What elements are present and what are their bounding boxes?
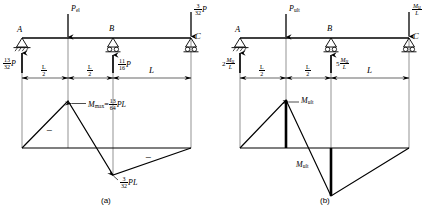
reaction-b-right-l-symbol: L: [343, 64, 346, 70]
load-label-pult-subscript: ult: [294, 7, 300, 13]
dimension-a1-numerator: L: [41, 64, 47, 70]
reaction-a-right-numerator: Mu: [226, 57, 236, 64]
reaction-a-right-fraction: Mu L: [226, 57, 236, 71]
pin-support-a-b: [232, 38, 249, 51]
dimension-b1-fraction: L 2: [259, 64, 265, 78]
reaction-a-left-fraction: 13 32: [3, 57, 11, 71]
reaction-b-right-numerator: Mu: [340, 57, 350, 64]
moment-negative-label-b: Mult: [296, 161, 308, 169]
roller-support-b: [106, 38, 121, 52]
dimension-label-a1: L 2: [41, 64, 47, 78]
dimension-a1-fraction: L 2: [41, 64, 47, 78]
reaction-label-b-right: 5 Mu L: [336, 57, 349, 71]
reaction-label-a-right: 2 Mu L: [222, 57, 235, 71]
reaction-b-right-fraction: Mu L: [340, 57, 350, 71]
reaction-c-right-l-symbol: L: [415, 10, 418, 16]
sign-minus-a-left: −: [46, 125, 52, 136]
moment-max-numerator-a: 13: [109, 98, 117, 104]
diagram-canvas: [0, 0, 436, 211]
point-label-a-right: A: [235, 25, 240, 34]
pin-support-a: [14, 38, 31, 51]
reaction-label-a-left: 13 32 P: [3, 57, 16, 71]
reaction-label-b-left: 11 16 P: [118, 58, 131, 72]
moment-positive-subscript-b: ult: [308, 99, 314, 105]
reaction-b-left-unit: P: [126, 60, 131, 69]
structural-moment-diagram-figure: A B C Pel 3 32 P 13 32 P 11 16 P L 2 L 2…: [0, 0, 436, 211]
moment-max-denominator-a: 64: [109, 104, 117, 111]
point-label-b-right: B: [327, 24, 332, 33]
moment-min-label-a: 3 32 PL: [120, 176, 137, 190]
reaction-a-left-numerator: 13: [3, 57, 11, 63]
dimension-b1-denominator: 2: [259, 70, 265, 77]
dimension-a2-fraction: L 2: [87, 64, 93, 78]
dimension-a1-denominator: 2: [41, 70, 47, 77]
reaction-c-right-m-subscript: u: [418, 4, 421, 10]
reaction-b-right-denominator: L: [340, 63, 350, 70]
reaction-a-left-denominator: 32: [3, 63, 11, 70]
dimension-b1-numerator: L: [259, 64, 265, 70]
moment-positive-symbol-b: M: [301, 96, 308, 105]
reaction-a-right-m-subscript: u: [232, 58, 235, 64]
dimension-label-b2: L 2: [305, 64, 311, 78]
dimension-label-a2: L 2: [87, 64, 93, 78]
moment-positive-label-b: Mult: [301, 97, 313, 105]
point-label-c-left: C: [195, 32, 201, 41]
load-label-pult: Pult: [289, 5, 300, 13]
moment-negative-subscript-b: ult: [303, 163, 309, 169]
dimension-b2-fraction: L 2: [305, 64, 311, 78]
moment-max-fraction-a: 13 64: [109, 98, 117, 112]
moment-negative-symbol-b: M: [296, 160, 303, 169]
reaction-c-left-unit: P: [202, 5, 207, 14]
reaction-b-right-m-symbol: M: [341, 57, 346, 63]
roller-support-b-b: [324, 38, 339, 52]
reaction-b-left-numerator: 11: [118, 58, 126, 64]
dimension-label-b1: L 2: [259, 64, 265, 78]
load-label-pel-subscript: el: [76, 7, 80, 13]
reaction-c-right-numerator: Mu: [412, 3, 422, 10]
moment-min-unit-a: PL: [128, 178, 137, 187]
dimension-a2-denominator: 2: [87, 70, 93, 77]
reaction-a-right-denominator: L: [226, 63, 236, 70]
moment-min-fraction-a: 3 32: [120, 176, 128, 190]
reaction-label-c-right: Mu L: [412, 3, 422, 17]
caption-panel-b: (b): [320, 196, 330, 205]
projection-lines-b: [240, 38, 409, 178]
reaction-a-right-m-symbol: M: [227, 57, 232, 63]
point-label-b-left: B: [109, 24, 114, 33]
panel-a-group: [14, 12, 199, 180]
reaction-c-left-fraction: 3 32: [194, 3, 202, 17]
moment-min-denominator-a: 32: [120, 182, 128, 189]
dimension-b2-numerator: L: [305, 64, 311, 70]
dimension-label-b3: L: [367, 66, 372, 75]
dimension-label-a3: L: [149, 66, 154, 75]
point-label-c-right: C: [413, 32, 419, 41]
dimension-a2-numerator: L: [87, 64, 93, 70]
reaction-c-right-fraction: Mu L: [412, 3, 422, 17]
leader-mmin-a: [114, 176, 119, 180]
moment-max-label-a: Mmax= 13 64 PL: [88, 98, 126, 112]
sign-minus-a-right: −: [145, 152, 151, 163]
reaction-b-left-denominator: 16: [118, 64, 126, 71]
dimension-b2-denominator: 2: [305, 70, 311, 77]
reaction-b-right-m-subscript: u: [346, 58, 349, 64]
panel-b-group: [232, 12, 417, 196]
reaction-a-right-l-symbol: L: [229, 64, 232, 70]
reaction-c-right-denominator: L: [412, 9, 422, 16]
load-label-pel: Pel: [71, 5, 80, 13]
moment-max-unit-a: PL: [117, 100, 126, 109]
reaction-label-c-left: 3 32 P: [194, 3, 207, 17]
caption-panel-a: (a): [101, 196, 111, 205]
point-label-a-left: A: [17, 25, 22, 34]
moment-max-symbol-a: M: [88, 100, 95, 109]
moment-max-subscript-a: max: [95, 103, 104, 109]
reaction-a-left-unit: P: [11, 59, 16, 68]
reaction-b-left-fraction: 11 16: [118, 58, 126, 72]
moment-curve-a: [22, 101, 191, 175]
reaction-c-left-denominator: 32: [194, 9, 202, 16]
